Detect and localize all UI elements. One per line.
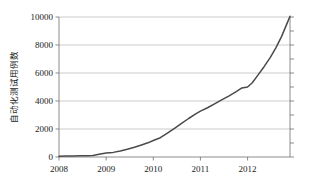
y-tick-label: 4000 xyxy=(35,96,54,106)
gridlines-group xyxy=(59,17,290,129)
x-tick-label: 2008 xyxy=(50,164,69,174)
x-tick-labels-group: 20082009201020112012 xyxy=(50,164,257,174)
y-tick-label: 10000 xyxy=(31,12,54,22)
x-tick-label: 2009 xyxy=(97,164,116,174)
right-axis-tickmarks-group xyxy=(290,17,294,157)
data-series-line xyxy=(59,16,290,156)
y-tick-label: 0 xyxy=(49,152,54,162)
y-tick-labels-group: 0200040006000800010000 xyxy=(31,12,54,162)
y-tickmarks-group xyxy=(56,17,60,157)
line-chart: 0200040006000800010000 20082009201020112… xyxy=(0,0,310,185)
y-tick-label: 6000 xyxy=(35,68,54,78)
y-tick-label: 2000 xyxy=(35,124,54,134)
y-tick-label: 8000 xyxy=(35,40,54,50)
x-tickmarks-group xyxy=(59,157,248,161)
chart-container: 0200040006000800010000 20082009201020112… xyxy=(0,0,310,185)
y-axis-title: 自动化测试用例数 xyxy=(9,51,19,123)
x-tick-label: 2012 xyxy=(239,164,257,174)
x-tick-label: 2010 xyxy=(144,164,163,174)
x-tick-label: 2011 xyxy=(192,164,210,174)
